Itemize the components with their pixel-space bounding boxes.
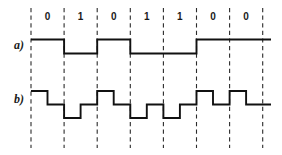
bit-label-2: 0 xyxy=(111,11,117,22)
row-label-b: b) xyxy=(14,92,24,106)
waveform-trace-a xyxy=(31,40,271,54)
bit-label-3: 1 xyxy=(144,11,150,22)
waveform-trace-b xyxy=(31,91,271,118)
bit-label-group: 0 1 0 1 1 0 0 xyxy=(45,11,250,22)
row-label-a: a) xyxy=(14,38,24,52)
bit-label-4: 1 xyxy=(177,11,183,22)
waveform-row-b: b) xyxy=(14,91,271,118)
bit-label-0: 0 xyxy=(45,11,51,22)
waveform-figure: 0 1 0 1 1 0 0 a) b) xyxy=(0,0,282,155)
bit-label-1: 1 xyxy=(78,11,84,22)
waveform-svg: 0 1 0 1 1 0 0 a) b) xyxy=(0,0,282,155)
waveform-row-a: a) xyxy=(14,38,271,54)
gridline-group xyxy=(31,8,263,148)
bit-label-6: 0 xyxy=(243,11,249,22)
bit-label-5: 0 xyxy=(210,11,216,22)
